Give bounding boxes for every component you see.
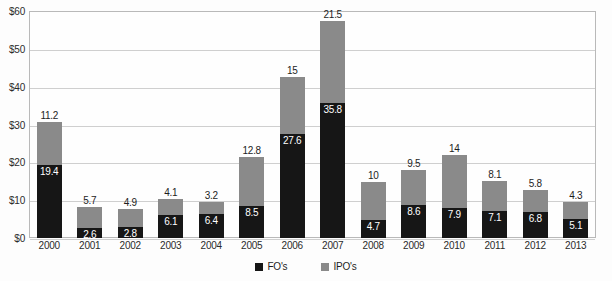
- x-tick-label: 2010: [434, 240, 475, 251]
- bar-value-label: 5.1: [563, 220, 588, 231]
- x-tick-label: 2005: [232, 240, 273, 251]
- chart-legend: FO'sIPO's: [0, 261, 612, 272]
- y-tick-label: $0: [14, 233, 25, 244]
- y-tick-label: $60: [9, 6, 25, 17]
- bar-group[interactable]: 147.9: [442, 155, 467, 238]
- bar-segment-fo[interactable]: 27.6: [280, 134, 305, 238]
- bar-group[interactable]: 4.16.1: [158, 199, 183, 238]
- bar-group[interactable]: 9.58.6: [401, 170, 426, 238]
- bar-segment-ipo[interactable]: [320, 21, 345, 102]
- bar-segment-fo[interactable]: 2.6: [77, 228, 102, 238]
- bar-group[interactable]: 104.7: [361, 182, 386, 238]
- bar-group[interactable]: 4.92.8: [118, 209, 143, 238]
- bar-group[interactable]: 4.35.1: [563, 202, 588, 238]
- legend-swatch-icon: [321, 263, 329, 271]
- x-tick-label: 2003: [151, 240, 192, 251]
- bar-segment-ipo[interactable]: [280, 77, 305, 134]
- bar-value-label: 2.8: [118, 228, 143, 239]
- bar-segment-fo[interactable]: 2.8: [118, 227, 143, 238]
- bar-top-label: 5.7: [69, 195, 110, 206]
- bar-segment-ipo[interactable]: [118, 209, 143, 228]
- x-tick-label: 2009: [394, 240, 435, 251]
- bar-segment-ipo[interactable]: [158, 199, 183, 215]
- y-tick-label: $10: [9, 195, 25, 206]
- bar-segment-ipo[interactable]: [563, 202, 588, 218]
- bar-top-label: 8.1: [474, 169, 515, 180]
- bar-top-label: 15: [272, 65, 313, 76]
- x-tick-label: 2002: [110, 240, 151, 251]
- bar-top-label: 4.1: [150, 187, 191, 198]
- bar-value-label: 6.1: [158, 216, 183, 227]
- bar-segment-fo[interactable]: 5.1: [563, 219, 588, 238]
- x-axis: 2000200120022003200420052006200720082009…: [29, 240, 596, 256]
- bar-group[interactable]: 1527.6: [280, 77, 305, 238]
- y-axis: $0$10$20$30$40$50$60: [0, 11, 28, 239]
- bar-value-label: 7.1: [482, 212, 507, 223]
- bar-segment-ipo[interactable]: [37, 122, 62, 164]
- bar-segment-ipo[interactable]: [401, 170, 426, 206]
- x-tick-label: 2012: [515, 240, 556, 251]
- bar-group[interactable]: 5.72.6: [77, 207, 102, 238]
- legend-item[interactable]: IPO's: [321, 261, 356, 272]
- bar-segment-ipo[interactable]: [482, 181, 507, 212]
- x-tick-label: 2013: [556, 240, 597, 251]
- bar-value-label: 27.6: [280, 135, 305, 146]
- bar-value-label: 6.8: [523, 213, 548, 224]
- y-tick-label: $50: [9, 43, 25, 54]
- bar-segment-fo[interactable]: 8.5: [239, 206, 264, 238]
- stacked-bar-chart: $0$10$20$30$40$50$60 11.219.45.72.64.92.…: [0, 0, 612, 281]
- x-tick-label: 2001: [70, 240, 111, 251]
- bar-segment-ipo[interactable]: [239, 157, 264, 205]
- bar-segment-ipo[interactable]: [523, 190, 548, 212]
- bar-value-label: 35.8: [320, 104, 345, 115]
- y-tick-label: $40: [9, 81, 25, 92]
- x-tick-label: 2004: [191, 240, 232, 251]
- bar-segment-fo[interactable]: 4.7: [361, 220, 386, 238]
- bar-top-label: 4.9: [110, 197, 151, 208]
- x-tick-label: 2011: [475, 240, 516, 251]
- bar-group[interactable]: 8.17.1: [482, 181, 507, 239]
- bar-segment-fo[interactable]: 35.8: [320, 103, 345, 238]
- bar-group[interactable]: 11.219.4: [37, 122, 62, 238]
- bar-top-label: 10: [353, 170, 394, 181]
- bar-segment-fo[interactable]: 6.1: [158, 215, 183, 238]
- bar-group[interactable]: 12.88.5: [239, 157, 264, 238]
- x-tick-label: 2006: [272, 240, 313, 251]
- y-tick-label: $30: [9, 119, 25, 130]
- bar-top-label: 3.2: [191, 190, 232, 201]
- bar-value-label: 6.4: [199, 215, 224, 226]
- bar-value-label: 19.4: [37, 166, 62, 177]
- x-tick-label: 2000: [29, 240, 70, 251]
- bar-value-label: 8.5: [239, 207, 264, 218]
- bar-segment-fo[interactable]: 8.6: [401, 205, 426, 238]
- legend-swatch-icon: [255, 263, 263, 271]
- bar-value-label: 2.6: [77, 229, 102, 240]
- bar-group[interactable]: 3.26.4: [199, 202, 224, 238]
- bar-value-label: 7.9: [442, 209, 467, 220]
- legend-item[interactable]: FO's: [255, 261, 287, 272]
- bar-top-label: 21.5: [312, 9, 353, 20]
- bar-segment-fo[interactable]: 7.1: [482, 211, 507, 238]
- y-tick-label: $20: [9, 157, 25, 168]
- bar-segment-fo[interactable]: 19.4: [37, 165, 62, 238]
- bar-group[interactable]: 5.86.8: [523, 190, 548, 238]
- bar-value-label: 4.7: [361, 221, 386, 232]
- bar-segment-ipo[interactable]: [361, 182, 386, 220]
- bar-segment-ipo[interactable]: [199, 202, 224, 214]
- legend-label: FO's: [267, 261, 287, 272]
- bar-top-label: 12.8: [231, 145, 272, 156]
- x-tick-label: 2007: [313, 240, 354, 251]
- bar-top-label: 5.8: [515, 178, 556, 189]
- bar-group[interactable]: 21.535.8: [320, 21, 345, 238]
- bar-value-label: 8.6: [401, 206, 426, 217]
- bar-segment-fo[interactable]: 6.4: [199, 214, 224, 238]
- bar-segment-ipo[interactable]: [77, 207, 102, 229]
- bar-segment-fo[interactable]: 6.8: [523, 212, 548, 238]
- bars-layer: 11.219.45.72.64.92.84.16.13.26.412.88.51…: [29, 11, 596, 238]
- bar-segment-ipo[interactable]: [442, 155, 467, 208]
- bar-top-label: 4.3: [555, 190, 596, 201]
- bar-segment-fo[interactable]: 7.9: [442, 208, 467, 238]
- x-tick-label: 2008: [353, 240, 394, 251]
- bar-top-label: 11.2: [29, 110, 70, 121]
- bar-top-label: 9.5: [393, 158, 434, 169]
